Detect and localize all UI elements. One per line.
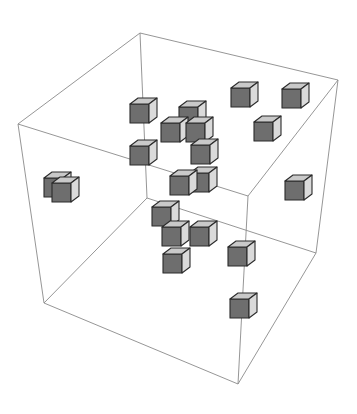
cube	[161, 117, 188, 142]
frame-edge	[238, 253, 316, 384]
cube-front-face	[190, 227, 209, 246]
cube	[170, 170, 197, 195]
cube	[130, 98, 157, 123]
cube-front-face	[170, 176, 189, 195]
cube	[282, 83, 309, 108]
cube-front-face	[231, 88, 250, 107]
frame-edge	[140, 33, 338, 80]
cube-front-face	[162, 227, 181, 246]
cube-front-face	[163, 254, 182, 273]
cube	[228, 241, 255, 266]
frame-edge	[18, 33, 140, 124]
cube	[191, 139, 218, 164]
cube-front-face	[130, 104, 149, 123]
cube	[52, 177, 79, 202]
frame-edge	[238, 196, 248, 384]
cube-collection	[44, 82, 312, 318]
cube-front-face	[228, 247, 247, 266]
cube	[130, 140, 157, 165]
cube-front-face	[282, 89, 301, 108]
cube	[285, 175, 312, 200]
cube	[163, 248, 190, 273]
cube-front-face	[52, 183, 71, 202]
frame-edge	[44, 303, 238, 384]
cube	[186, 117, 213, 142]
cube	[254, 116, 281, 141]
cube	[230, 293, 257, 318]
cube-front-face	[285, 181, 304, 200]
cube	[162, 221, 189, 246]
cube-front-face	[161, 123, 180, 142]
cube-front-face	[130, 146, 149, 165]
cube-front-face	[191, 145, 210, 164]
frame-edge	[44, 198, 147, 303]
3d-scatter-cube-diagram	[0, 0, 357, 414]
cube-front-face	[254, 122, 273, 141]
cube-front-face	[230, 299, 249, 318]
cube	[190, 221, 217, 246]
frame-edge	[18, 124, 44, 303]
cube	[231, 82, 258, 107]
frame-edge	[316, 80, 338, 253]
